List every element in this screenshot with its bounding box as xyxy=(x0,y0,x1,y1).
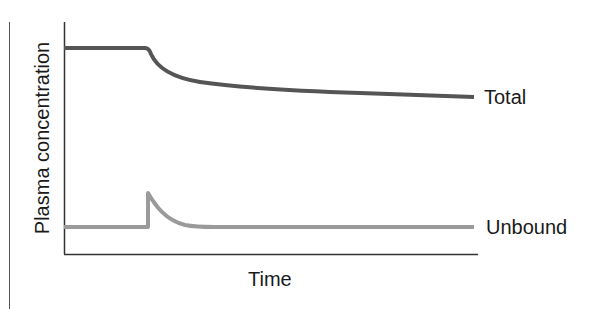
series-total-line xyxy=(64,48,474,97)
x-axis-label: Time xyxy=(248,268,292,291)
y-axis-label: Plasma concentration xyxy=(31,42,54,234)
series-label-unbound: Unbound xyxy=(486,216,567,239)
plot-area xyxy=(0,0,607,309)
series-label-total: Total xyxy=(484,86,526,109)
series-unbound-line xyxy=(64,193,474,227)
